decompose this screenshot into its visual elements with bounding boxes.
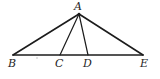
- vertex-label-a: A: [74, 1, 82, 12]
- cevians: [60, 14, 88, 55]
- triangle-outline: [13, 14, 143, 55]
- vertex-label-c: C: [55, 58, 63, 69]
- segment-ae: [79, 14, 143, 55]
- vertex-label-e: E: [140, 58, 148, 69]
- segment-ad: [79, 14, 88, 55]
- vertex-label-b: B: [8, 58, 16, 69]
- vertex-label-d: D: [83, 58, 92, 69]
- vertex-point-a: [78, 13, 81, 16]
- geometry-figure: A B C D E: [0, 0, 160, 79]
- stray-speck: [36, 57, 38, 59]
